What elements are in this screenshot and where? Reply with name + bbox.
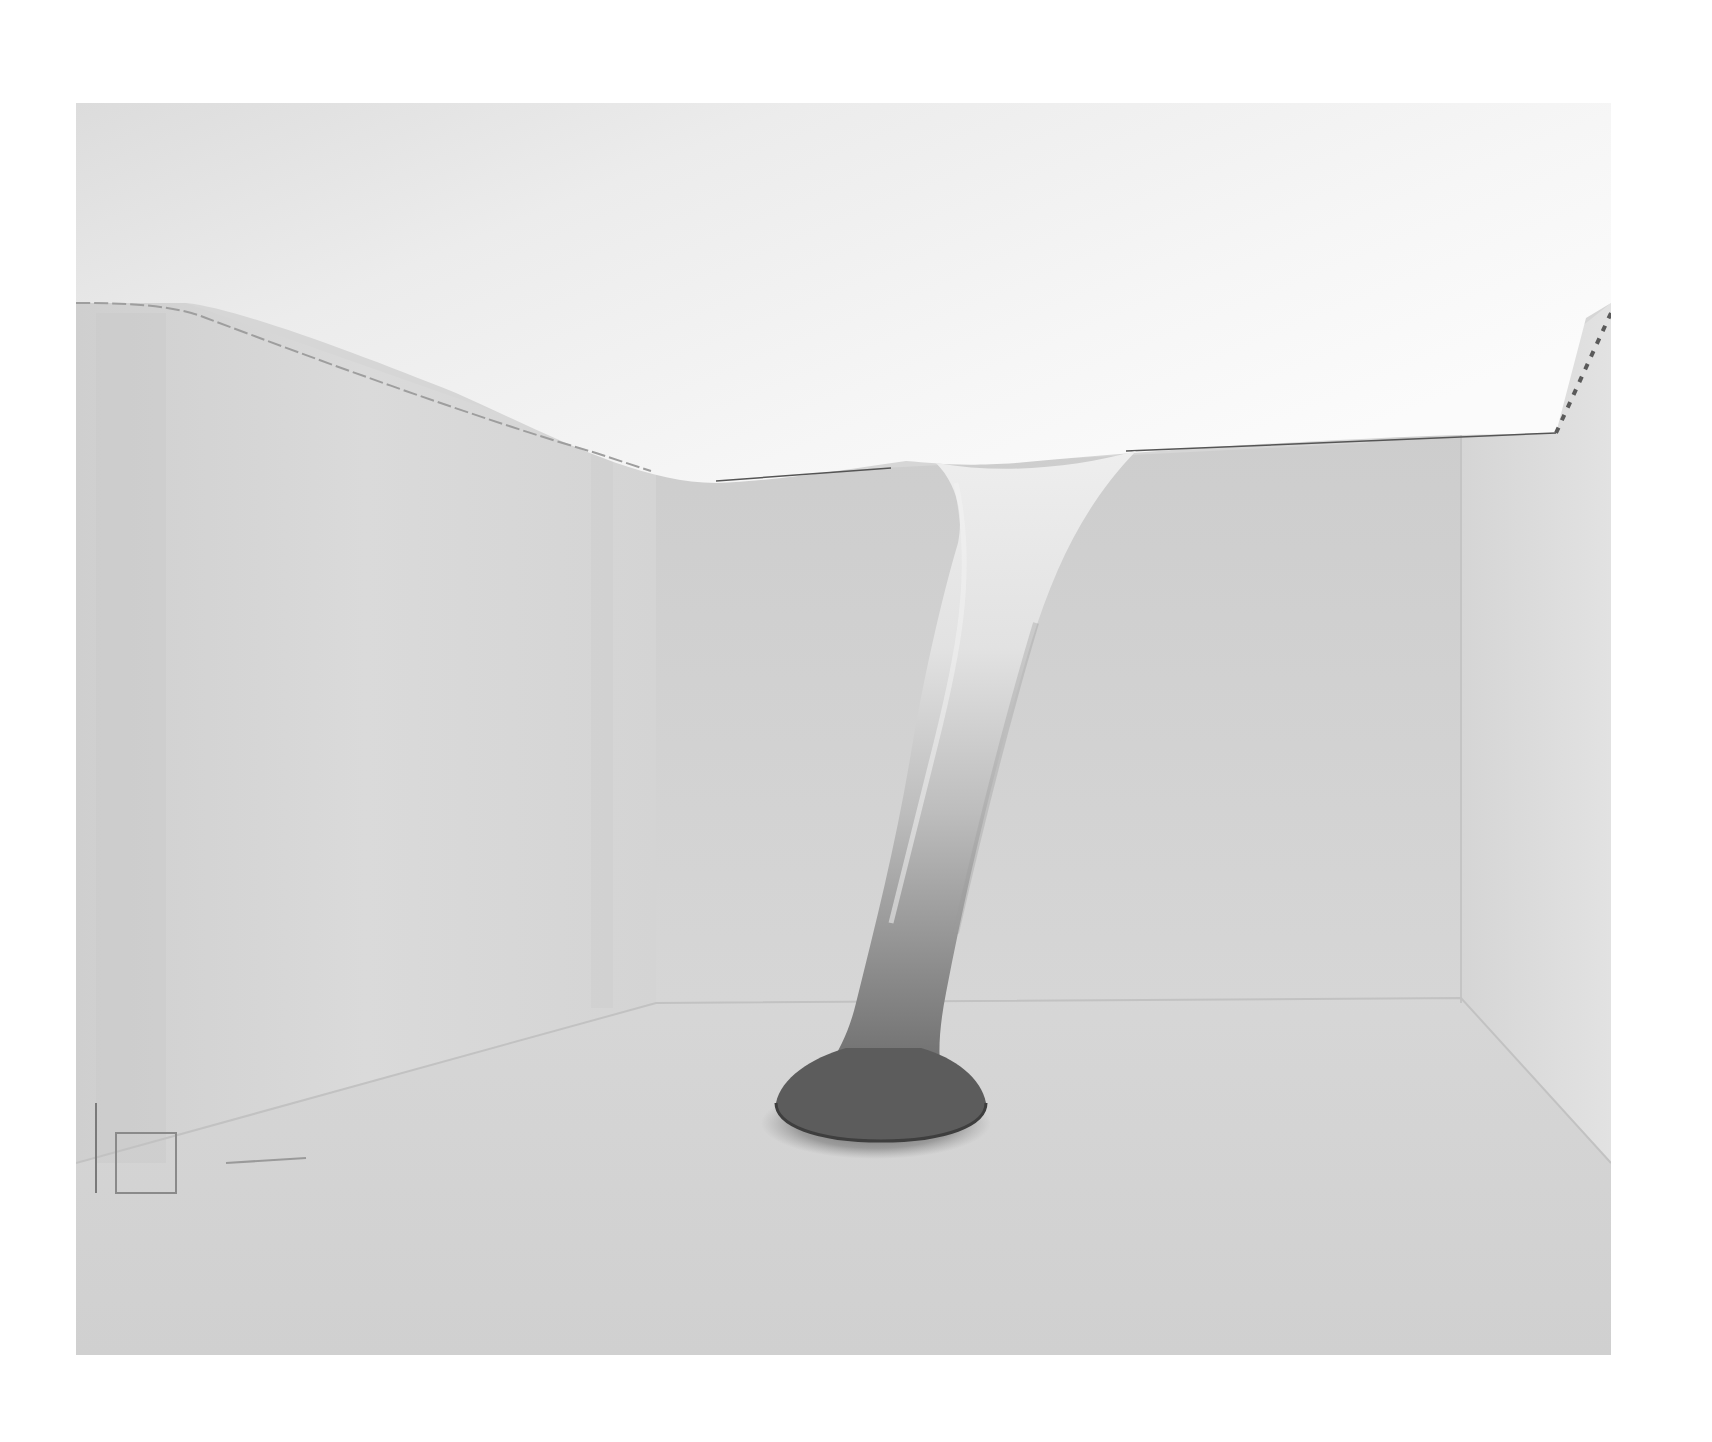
- installation-photograph: [76, 103, 1611, 1355]
- photo-scene: [76, 103, 1611, 1355]
